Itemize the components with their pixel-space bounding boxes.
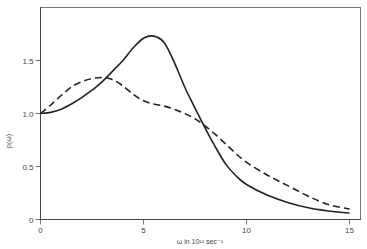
y-tick-label: 0.5 [22, 163, 34, 172]
y-tick-label: 1.5 [22, 57, 34, 66]
x-tick-label: 10 [242, 226, 251, 235]
plot-frame [41, 8, 361, 220]
x-tick-label: 0 [38, 226, 43, 235]
y-tick-label: 1.0 [22, 110, 34, 119]
x-axis-title: ω in 10¹² sec⁻¹ [177, 238, 224, 245]
x-tick-label: 15 [345, 226, 354, 235]
y-ticks: 00.51.01.5 [22, 57, 40, 225]
solid-curve [41, 36, 350, 213]
y-axis-title: p(ω) [5, 134, 13, 148]
x-tick-label: 5 [141, 226, 146, 235]
chart: 00.51.01.5 051015 p(ω) ω in 10¹² sec⁻¹ [0, 0, 367, 249]
x-ticks: 051015 [38, 220, 354, 235]
y-tick-label: 0 [29, 216, 34, 225]
dashed-curve [41, 77, 350, 208]
